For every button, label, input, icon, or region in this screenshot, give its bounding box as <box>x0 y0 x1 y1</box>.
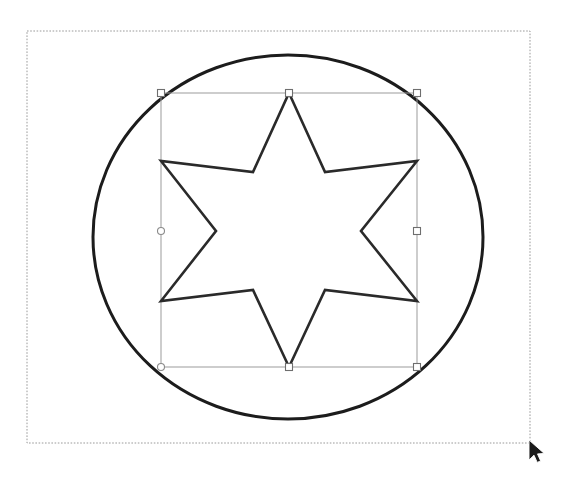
mouse-pointer-icon <box>529 440 544 462</box>
handle-middle-left[interactable] <box>158 228 165 235</box>
handle-bottom-left[interactable] <box>158 364 165 371</box>
handle-middle-right[interactable] <box>414 228 421 235</box>
handle-top-right[interactable] <box>414 90 421 97</box>
selection-bounding-box <box>161 93 417 367</box>
selection-handles[interactable] <box>158 90 421 371</box>
handle-bottom-right[interactable] <box>414 364 421 371</box>
handle-top-center[interactable] <box>286 90 293 97</box>
handle-bottom-center[interactable] <box>286 364 293 371</box>
shape-six-pointed-star[interactable] <box>161 93 417 367</box>
handle-top-left[interactable] <box>158 90 165 97</box>
app-root <box>0 0 574 481</box>
cursor-arrow-glyph <box>529 440 544 462</box>
drawing-stage[interactable] <box>0 0 574 481</box>
